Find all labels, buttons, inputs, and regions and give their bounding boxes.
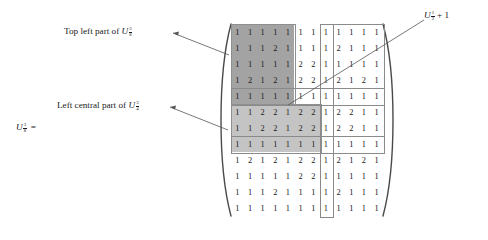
- matrix-cell: 2: [332, 72, 345, 88]
- matrix-row: 112212212211: [231, 104, 383, 120]
- matrix-cell: 1: [345, 200, 358, 216]
- matrix-cell: 1: [244, 200, 257, 216]
- matrix-cell: 1: [269, 136, 282, 152]
- matrix-cell: 1: [269, 24, 282, 40]
- matrix-cell: 2: [269, 152, 282, 168]
- matrix-cell: 1: [231, 56, 244, 72]
- lhs-variable: U: [16, 122, 23, 132]
- matrix-row: 111111111111: [231, 136, 383, 152]
- matrix-cell: 1: [282, 104, 295, 120]
- matrix-cell: 1: [231, 152, 244, 168]
- matrix-cell: 1: [282, 120, 295, 136]
- matrix-row: 111111111111: [231, 88, 383, 104]
- annotation-top-left-denominator: 8: [129, 33, 133, 38]
- matrix-container: 1111111111111112111121111111122111111212…: [219, 22, 395, 218]
- matrix-cell: 2: [358, 152, 371, 168]
- matrix-cell: 2: [307, 104, 320, 120]
- matrix-cell: 1: [332, 168, 345, 184]
- matrix-cell: 1: [244, 184, 257, 200]
- matrix-row: 111111111111: [231, 200, 383, 216]
- annotation-left-central-variable: U: [128, 100, 135, 110]
- matrix-cell: 1: [345, 72, 358, 88]
- matrix-row: 111112211111: [231, 168, 383, 184]
- annotation-top-left-variable: U: [122, 26, 129, 36]
- matrix-cell: 1: [231, 200, 244, 216]
- lhs-subscript-fraction: 38: [23, 123, 27, 133]
- annotation-top-left-text: Top left part of: [64, 26, 122, 36]
- matrix-cell: 1: [244, 24, 257, 40]
- matrix-cell: 1: [282, 136, 295, 152]
- matrix-row: 121212212121: [231, 152, 383, 168]
- lhs-equals: =: [31, 122, 36, 132]
- matrix-cell: 2: [332, 120, 345, 136]
- matrix-cell: 1: [231, 184, 244, 200]
- matrix-cell: 2: [244, 152, 257, 168]
- matrix-cell: 1: [370, 200, 383, 216]
- matrix-cell: 1: [320, 168, 333, 184]
- matrix-cell: 1: [358, 88, 371, 104]
- matrix-cell: 1: [269, 88, 282, 104]
- matrix-cell: 2: [256, 120, 269, 136]
- matrix-cell: 2: [244, 72, 257, 88]
- matrix-cell: 1: [370, 184, 383, 200]
- matrix-cell: 1: [358, 40, 371, 56]
- matrix-cell: 1: [345, 168, 358, 184]
- matrix-cell: 2: [307, 120, 320, 136]
- matrix-cell: 2: [294, 104, 307, 120]
- matrix-cell: 1: [332, 24, 345, 40]
- matrix-cell: 1: [370, 24, 383, 40]
- matrix-cell: 1: [320, 56, 333, 72]
- matrix-cell: 2: [269, 40, 282, 56]
- matrix-row: 121212212121: [231, 72, 383, 88]
- matrix-cell: 1: [358, 184, 371, 200]
- matrix-cell: 1: [244, 120, 257, 136]
- right-parenthesis: [382, 22, 395, 218]
- lhs-subscript-denominator: 8: [23, 129, 27, 134]
- matrix-cell: 1: [370, 104, 383, 120]
- matrix-row: 111211112111: [231, 184, 383, 200]
- matrix-cell: 2: [358, 72, 371, 88]
- matrix-cell: 1: [320, 200, 333, 216]
- annotation-u-half-plus-one: U12 + 1: [424, 11, 449, 22]
- matrix-cell: 1: [345, 40, 358, 56]
- matrix-cell: 1: [244, 88, 257, 104]
- matrix-cell: 1: [345, 88, 358, 104]
- matrix-cell: 1: [256, 56, 269, 72]
- matrix-cell: 2: [294, 120, 307, 136]
- matrix-row: 111112211111: [231, 56, 383, 72]
- matrix-cell: 2: [256, 104, 269, 120]
- matrix-cell: 1: [294, 200, 307, 216]
- matrix-cell: 2: [332, 184, 345, 200]
- matrix-cell: 2: [345, 104, 358, 120]
- annotation-left-central-denominator: 4: [136, 107, 140, 112]
- matrix-cell: 1: [282, 152, 295, 168]
- matrix-body: 1111111111111112111121111111122111111212…: [231, 24, 383, 216]
- matrix-cell: 1: [282, 40, 295, 56]
- matrix-cell: 1: [256, 152, 269, 168]
- matrix-cell: 1: [345, 136, 358, 152]
- matrix-cell: 1: [269, 168, 282, 184]
- matrix-cell: 1: [231, 24, 244, 40]
- matrix-cell: 1: [282, 24, 295, 40]
- matrix-cell: 1: [320, 120, 333, 136]
- matrix-cell: 1: [231, 168, 244, 184]
- matrix-cell: 1: [370, 56, 383, 72]
- matrix-cell: 1: [320, 24, 333, 40]
- matrix-row: 111111111111: [231, 24, 383, 40]
- matrix-cell: 1: [332, 88, 345, 104]
- matrix-cell: 1: [282, 184, 295, 200]
- matrix-cell: 2: [294, 72, 307, 88]
- matrix-cell: 1: [294, 40, 307, 56]
- matrix-row: 112212212211: [231, 120, 383, 136]
- matrix-cell: 1: [358, 136, 371, 152]
- matrix-cell: 1: [320, 136, 333, 152]
- matrix-cell: 1: [370, 72, 383, 88]
- matrix-cell: 1: [256, 184, 269, 200]
- matrix-cell: 2: [307, 168, 320, 184]
- annotation-top-left-fraction: 38: [129, 27, 133, 37]
- matrix-cell: 2: [269, 120, 282, 136]
- matrix-cell: 1: [294, 184, 307, 200]
- matrix-cell: 1: [307, 200, 320, 216]
- matrix-cell: 1: [256, 72, 269, 88]
- matrix-cell: 1: [256, 136, 269, 152]
